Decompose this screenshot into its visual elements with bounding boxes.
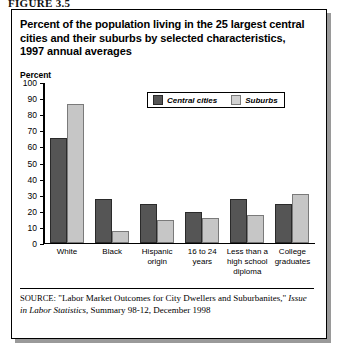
y-axis-tick-label: 20 [28, 207, 37, 217]
chart-title: Percent of the population living in the … [20, 18, 312, 59]
source-prefix: SOURCE [20, 293, 54, 303]
bar-central-cities [50, 138, 67, 243]
bar-suburbs [202, 218, 219, 242]
y-axis-tick-label: 100 [23, 78, 37, 88]
y-axis-tick-label: 50 [28, 159, 37, 169]
x-axis-category-label: Black [90, 247, 135, 277]
source-tail: , Summary 98-12, December 1998 [86, 305, 210, 315]
y-axis-tick-mark [40, 244, 44, 245]
legend-item-suburbs: Suburbs [231, 95, 277, 105]
source-note: SOURCE: "Labor Market Outcomes for City … [20, 293, 316, 316]
y-axis-tick-mark [40, 228, 44, 229]
y-axis-tick-label: 0 [32, 239, 37, 249]
x-axis-category-label: College graduates [270, 247, 315, 277]
y-axis-tick-label: 70 [28, 126, 37, 136]
bar-group [90, 83, 135, 243]
legend-item-central-cities: Central cities [153, 95, 217, 105]
y-axis-tick-mark [40, 212, 44, 213]
y-axis-tick-mark [40, 180, 44, 181]
bar-suburbs [157, 220, 174, 243]
y-axis-tick-mark [40, 147, 44, 148]
legend-swatch-icon-suburbs [231, 95, 241, 105]
legend-label-suburbs: Suburbs [245, 96, 277, 105]
x-axis-category-label: 16 to 24 years [180, 247, 225, 277]
bar-suburbs [247, 215, 264, 242]
bar-suburbs [67, 104, 84, 242]
y-axis-tick-mark [40, 131, 44, 132]
x-axis-category-label: Hispanic origin [135, 247, 180, 277]
y-axis-tick-label: 30 [28, 191, 37, 201]
y-axis-tick-label: 60 [28, 142, 37, 152]
bar-suburbs [292, 194, 309, 242]
y-axis-tick-mark [40, 83, 44, 84]
bar-central-cities [140, 204, 157, 243]
bar-central-cities [95, 199, 112, 242]
bar-suburbs [112, 231, 129, 242]
bar-central-cities [230, 199, 247, 242]
y-axis-tick-label: 40 [28, 175, 37, 185]
x-axis-category-labels: WhiteBlackHispanic origin16 to 24 yearsL… [45, 247, 316, 277]
legend-label-central-cities: Central cities [167, 96, 217, 105]
y-axis-tick-label: 90 [28, 94, 37, 104]
source-quoted-title: "Labor Market Outcomes for City Dwellers… [58, 293, 286, 303]
x-axis-category-label: Less than a high school diploma [225, 247, 270, 277]
bar-group [45, 83, 90, 243]
y-axis-tick-mark [40, 99, 44, 100]
legend-swatch-icon-central-cities [153, 95, 163, 105]
y-axis-tick-mark [40, 115, 44, 116]
figure-label: FIGURE 3.5 [8, 0, 70, 9]
x-axis-line [43, 243, 315, 245]
y-axis-tick-mark [40, 164, 44, 165]
y-axis-tick-label: 80 [28, 110, 37, 120]
chart-legend: Central cities Suburbs [147, 92, 285, 108]
bar-central-cities [275, 204, 292, 243]
y-axis-tick-label: 10 [28, 223, 37, 233]
bar-central-cities [185, 212, 202, 243]
x-axis-category-label: White [45, 247, 90, 277]
y-axis-tick-mark [40, 196, 44, 197]
source-divider [20, 288, 314, 289]
